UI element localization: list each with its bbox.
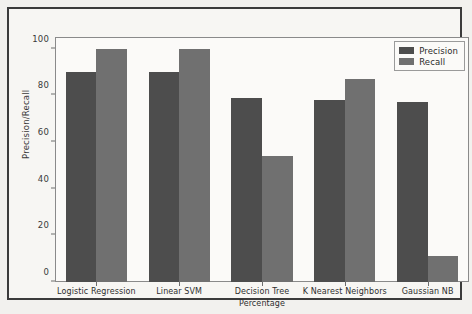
legend-label: Precision — [419, 46, 458, 56]
y-tick-mark — [51, 281, 55, 282]
bar-precision — [397, 102, 428, 282]
y-axis-label: Precision/Recall — [21, 90, 31, 159]
figure-frame: Precision/Recall 020406080100 Logistic R… — [7, 7, 462, 300]
y-tick-mark — [51, 187, 55, 188]
y-tick-label: 80 — [38, 80, 49, 90]
plot-area: 020406080100 Logistic RegressionLinear S… — [55, 37, 469, 282]
y-tick-label: 100 — [32, 34, 49, 44]
y-tick-label: 20 — [38, 220, 49, 230]
y-tick-mark — [51, 234, 55, 235]
x-tick-label: Decision Tree — [235, 287, 290, 296]
legend-item[interactable]: Recall — [399, 56, 458, 67]
bar-recall — [262, 156, 293, 282]
bar-precision — [66, 72, 97, 282]
x-tick-label: Gaussian NB — [402, 287, 454, 296]
x-tick-mark — [262, 282, 263, 286]
x-tick-mark — [96, 282, 97, 286]
y-tick-label: 0 — [43, 267, 49, 277]
bar-group — [231, 37, 292, 282]
y-tick-label: 40 — [38, 174, 49, 184]
x-tick-mark — [428, 282, 429, 286]
bar-precision — [314, 100, 345, 282]
x-axis-label: Percentage — [239, 299, 285, 308]
bar-recall — [179, 49, 210, 282]
x-tick-mark — [179, 282, 180, 286]
y-tick-mark — [51, 94, 55, 95]
y-tick-mark — [51, 141, 55, 142]
bar-recall — [428, 256, 459, 282]
legend-swatch-icon — [399, 58, 414, 65]
legend-label: Recall — [419, 57, 445, 67]
y-tick-label: 60 — [38, 127, 49, 137]
x-tick-mark — [345, 282, 346, 286]
x-tick-label: Linear SVM — [156, 287, 202, 296]
bar-precision — [149, 72, 180, 282]
legend-item[interactable]: Precision — [399, 45, 458, 56]
legend-swatch-icon — [399, 47, 414, 54]
bar-precision — [231, 98, 262, 282]
bar-recall — [96, 49, 127, 282]
bar-group — [66, 37, 127, 282]
x-tick-label: K Nearest Neighbors — [303, 287, 387, 296]
chart-legend: PrecisionRecall — [394, 41, 465, 71]
bar-group — [397, 37, 458, 282]
bar-group — [314, 37, 375, 282]
x-tick-label: Logistic Regression — [57, 287, 136, 296]
y-tick-mark — [51, 47, 55, 48]
bar-group — [149, 37, 210, 282]
bar-recall — [345, 79, 376, 282]
